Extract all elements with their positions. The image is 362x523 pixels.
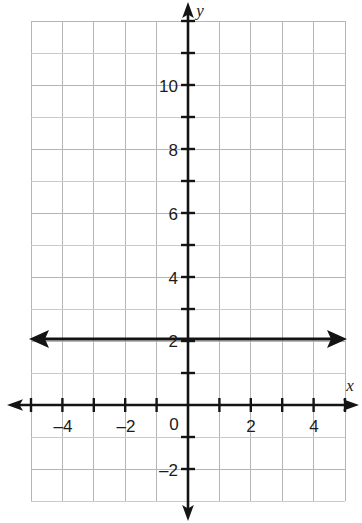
- x-tick-label-neg4: –4: [54, 417, 73, 436]
- y-tick-label-8: 8: [169, 141, 178, 160]
- x-axis-title: x: [345, 376, 354, 395]
- y-axis: [182, 2, 194, 521]
- x-axis: [7, 399, 359, 411]
- y-tick-label-10: 10: [159, 77, 178, 96]
- y-tick-label-2: 2: [169, 332, 178, 351]
- y-axis-title: y: [194, 1, 204, 20]
- x-tick-label-2: 2: [246, 417, 255, 436]
- y-tick-label-6: 6: [169, 205, 178, 224]
- y-tick-label-neg2: –2: [159, 461, 178, 480]
- x-tick-label-origin: 0: [169, 415, 178, 434]
- graph-canvas: 10 8 6 4 2 –2 –4 –2 0 2 4 y x: [0, 0, 362, 523]
- x-tick-label-neg2: –2: [117, 417, 136, 436]
- y-tick-label-4: 4: [169, 269, 178, 288]
- x-tick-label-4: 4: [309, 417, 318, 436]
- coordinate-plane-figure: 10 8 6 4 2 –2 –4 –2 0 2 4 y x: [0, 0, 362, 523]
